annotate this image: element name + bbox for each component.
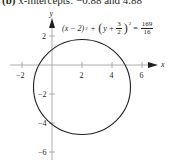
x-axis-label: x [160, 60, 165, 69]
eq-frac-den: 2 [117, 29, 121, 36]
eq-equals: = [133, 24, 138, 33]
x-tick-label: −2 [16, 71, 25, 80]
x-axis-arrow-icon [148, 62, 158, 68]
equation-label: (x − 2) 2 + ( y + 3 2 ) 2 = 169 16 [62, 21, 154, 36]
eq-exp-1: 2 [85, 26, 88, 31]
y-axis-label: y [49, 9, 54, 18]
y-tick-label: −4 [38, 119, 47, 128]
eq-plus: + [91, 24, 96, 33]
eq-x-term: (x − 2) [62, 24, 84, 33]
eq-rhs-den: 16 [144, 29, 151, 36]
x-tick-label: 4 [110, 71, 114, 80]
x-tick-label: 2 [80, 71, 84, 80]
eq-rhs-fraction: 169 16 [141, 21, 154, 36]
circle-curve [34, 40, 131, 135]
eq-paren-close: ) [124, 21, 128, 36]
y-tick-label: 2 [42, 32, 46, 41]
y-axis-arrow-icon [49, 18, 55, 28]
eq-fraction: 3 2 [116, 21, 122, 36]
y-tick-label: −6 [38, 148, 47, 157]
x-tick-label: 6 [140, 71, 144, 80]
y-tick-label: −2 [38, 90, 47, 99]
eq-exp-2: 2 [129, 21, 132, 26]
eq-y-term: y + [103, 24, 114, 33]
eq-paren-open: ( [98, 21, 102, 36]
